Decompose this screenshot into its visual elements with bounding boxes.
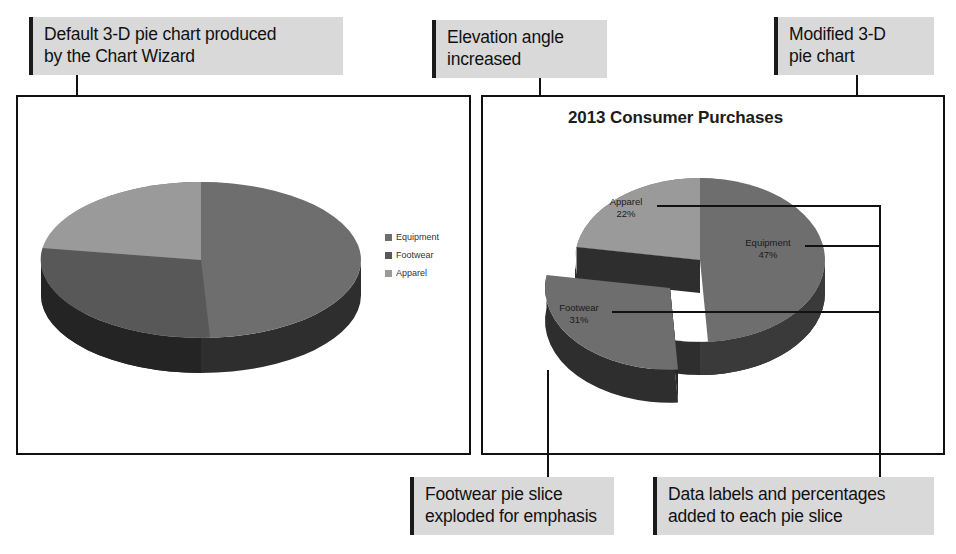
legend-swatch-equipment bbox=[385, 234, 392, 241]
data-label-equipment: Equipment 47% bbox=[735, 237, 801, 261]
callout-default-chart: Default 3-D pie chart produced by the Ch… bbox=[29, 17, 343, 75]
callout-exploded-slice: Footwear pie slice exploded for emphasis bbox=[410, 477, 614, 535]
data-label-equipment-percent: 47% bbox=[735, 249, 801, 261]
callout-data-labels: Data labels and percentages added to eac… bbox=[653, 477, 934, 535]
leader-riser-data-labels bbox=[879, 205, 881, 481]
connector-footwear-horizontal bbox=[547, 370, 548, 372]
legend-label-footwear: Footwear bbox=[396, 250, 434, 260]
data-label-apparel-name: Apparel bbox=[610, 196, 643, 207]
data-label-apparel: Apparel 22% bbox=[598, 196, 654, 220]
callout-modified-chart: Modified 3-D pie chart bbox=[774, 17, 934, 75]
modified-chart-title: 2013 Consumer Purchases bbox=[568, 108, 783, 128]
data-label-apparel-percent: 22% bbox=[598, 208, 654, 220]
legend-label-apparel: Apparel bbox=[396, 268, 427, 278]
data-label-footwear: Footwear 31% bbox=[549, 302, 609, 326]
default-chart-legend: Equipment Footwear Apparel bbox=[385, 232, 439, 286]
data-label-footwear-name: Footwear bbox=[559, 302, 599, 313]
leader-line-footwear bbox=[612, 311, 881, 313]
data-label-footwear-percent: 31% bbox=[549, 314, 609, 326]
legend-label-equipment: Equipment bbox=[396, 232, 439, 242]
leader-line-apparel bbox=[657, 205, 881, 207]
legend-item-equipment: Equipment bbox=[385, 232, 439, 242]
leader-line-equipment bbox=[805, 245, 881, 247]
legend-swatch-footwear bbox=[385, 252, 392, 259]
data-label-equipment-name: Equipment bbox=[745, 237, 790, 248]
callout-elevation-angle: Elevation angle increased bbox=[432, 20, 607, 78]
modified-pie-graphic bbox=[510, 165, 900, 415]
legend-item-apparel: Apparel bbox=[385, 268, 439, 278]
default-pie-graphic bbox=[28, 160, 373, 390]
legend-item-footwear: Footwear bbox=[385, 250, 439, 260]
connector-footwear-vertical bbox=[547, 370, 549, 477]
legend-swatch-apparel bbox=[385, 270, 392, 277]
